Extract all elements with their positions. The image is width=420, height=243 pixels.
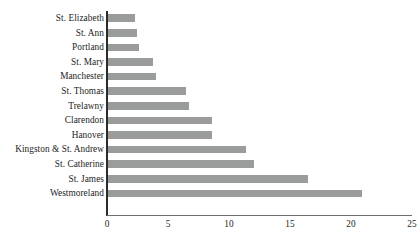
bar-row: Hanover bbox=[0, 128, 420, 143]
bar-row: St. James bbox=[0, 172, 420, 187]
x-tick-label: 15 bbox=[285, 217, 294, 231]
x-axis-tick-labels: 0510152025 bbox=[0, 217, 420, 237]
category-label: Hanover bbox=[0, 128, 104, 143]
category-label: St. Thomas bbox=[0, 84, 104, 99]
x-tick-label: 25 bbox=[407, 217, 416, 231]
bar-row: St. Elizabeth bbox=[0, 11, 420, 26]
bar-row: St. Ann bbox=[0, 26, 420, 41]
bar bbox=[108, 131, 212, 139]
x-tick-label: 5 bbox=[166, 217, 171, 231]
category-label: St. Catherine bbox=[0, 157, 104, 172]
horizontal-bar-chart: St. ElizabethSt. AnnPortlandSt. MaryManc… bbox=[0, 0, 420, 243]
category-label: St. James bbox=[0, 172, 104, 187]
bar-track bbox=[108, 175, 413, 183]
category-label: Trelawny bbox=[0, 99, 104, 114]
bar-track bbox=[108, 131, 413, 139]
bar bbox=[108, 160, 254, 168]
bar-row: Portland bbox=[0, 40, 420, 55]
category-label: Kingston & St. Andrew bbox=[0, 142, 104, 157]
bar bbox=[108, 190, 362, 198]
x-tick-label: 0 bbox=[105, 217, 110, 231]
bar bbox=[108, 87, 186, 95]
bar-row: Westmoreland bbox=[0, 186, 420, 201]
bar-track bbox=[108, 44, 413, 52]
bar-row: St. Catherine bbox=[0, 157, 420, 172]
bar-row: Clarendon bbox=[0, 113, 420, 128]
bar-track bbox=[108, 14, 413, 22]
bar bbox=[108, 58, 153, 66]
bar bbox=[108, 102, 189, 110]
bar-row: St. Mary bbox=[0, 55, 420, 70]
x-tick-label: 20 bbox=[346, 217, 355, 231]
bar-track bbox=[108, 58, 413, 66]
category-label: Manchester bbox=[0, 69, 104, 84]
category-label: St. Ann bbox=[0, 26, 104, 41]
bar bbox=[108, 29, 137, 37]
category-label: St. Mary bbox=[0, 55, 104, 70]
x-axis-baseline bbox=[107, 215, 412, 216]
bar bbox=[108, 14, 135, 22]
category-label: St. Elizabeth bbox=[0, 11, 104, 26]
bar-track bbox=[108, 146, 413, 154]
bar-track bbox=[108, 87, 413, 95]
bar-track bbox=[108, 160, 413, 168]
plot-area: St. ElizabethSt. AnnPortlandSt. MaryManc… bbox=[0, 0, 420, 243]
bar bbox=[108, 73, 156, 81]
category-label: Westmoreland bbox=[0, 186, 104, 201]
bar bbox=[108, 117, 212, 125]
bar-track bbox=[108, 102, 413, 110]
bar-row: St. Thomas bbox=[0, 84, 420, 99]
bar-row: Kingston & St. Andrew bbox=[0, 142, 420, 157]
x-tick-label: 10 bbox=[224, 217, 233, 231]
category-label: Clarendon bbox=[0, 113, 104, 128]
bar-track bbox=[108, 29, 413, 37]
bar-row: Trelawny bbox=[0, 99, 420, 114]
bar bbox=[108, 44, 139, 52]
bar-rows: St. ElizabethSt. AnnPortlandSt. MaryManc… bbox=[0, 11, 420, 201]
bar bbox=[108, 175, 308, 183]
bar-track bbox=[108, 73, 413, 81]
bar-track bbox=[108, 190, 413, 198]
bar bbox=[108, 146, 246, 154]
bar-row: Manchester bbox=[0, 69, 420, 84]
bar-track bbox=[108, 117, 413, 125]
category-label: Portland bbox=[0, 40, 104, 55]
